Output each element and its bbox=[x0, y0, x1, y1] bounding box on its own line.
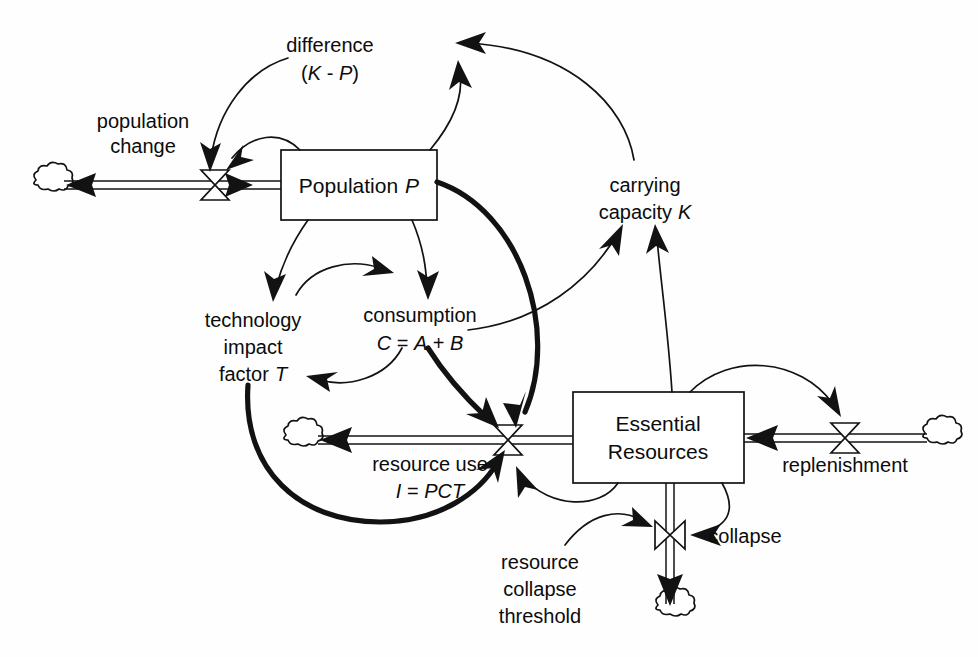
flow-collapse bbox=[655, 483, 685, 606]
aux-label-technology-line1: technology bbox=[205, 309, 302, 331]
cloud-left-top-icon bbox=[34, 162, 73, 191]
flow-arrowhead-population bbox=[225, 173, 253, 197]
valve-population-change-top bbox=[201, 170, 229, 185]
valve-replenishment-bottom bbox=[831, 438, 859, 453]
link-resources-to-carrying-capacity bbox=[646, 224, 672, 392]
valve-resource-use-bottom bbox=[494, 440, 522, 455]
system-dynamics-diagram: PopulationP Essential Resources bbox=[0, 0, 978, 657]
link-consumption-to-resource-use bbox=[428, 348, 499, 428]
valve-replenishment-top bbox=[831, 423, 859, 438]
aux-label-difference-line1: difference bbox=[286, 34, 373, 56]
valve-collapse-left bbox=[655, 521, 670, 549]
aux-label-difference-line2: (K - P) bbox=[301, 62, 359, 84]
link-population-to-difference bbox=[430, 60, 472, 150]
flow-label-replenishment: replenishment bbox=[782, 454, 908, 476]
flow-label-population-change-line1: population bbox=[97, 110, 189, 132]
flow-population-change bbox=[64, 170, 281, 200]
valve-collapse-right bbox=[670, 521, 685, 549]
link-carrying-capacity-to-difference bbox=[455, 32, 634, 160]
flow-label-population-change-line2: change bbox=[110, 135, 176, 157]
valve-population-change-bottom bbox=[201, 185, 229, 200]
stock-essential-resources-label-line2: Resources bbox=[608, 440, 708, 463]
flow-label-resource-use-line1: resource use bbox=[372, 453, 488, 475]
aux-label-carrying-capacity-line1: carrying bbox=[609, 174, 680, 196]
cloud-right-icon bbox=[923, 415, 962, 444]
aux-label-threshold-line3: threshold bbox=[499, 605, 581, 627]
flow-replenishment bbox=[744, 423, 927, 453]
flow-resource-use bbox=[318, 425, 573, 455]
stock-population[interactable]: PopulationP bbox=[281, 150, 437, 220]
link-consumption-to-carrying-capacity bbox=[468, 224, 623, 330]
link-difference-to-population-change bbox=[200, 58, 288, 172]
flow-arrowhead-essential-resources bbox=[746, 425, 778, 451]
aux-label-technology-line2: impact bbox=[224, 336, 283, 358]
flow-label-resource-use-line2: I = PCT bbox=[396, 480, 466, 502]
aux-label-consumption-line1: consumption bbox=[363, 304, 476, 326]
aux-label-threshold-line1: resource bbox=[501, 551, 579, 573]
aux-label-technology-line3: factorT bbox=[219, 363, 289, 385]
flow-label-collapse: collapse bbox=[708, 525, 781, 547]
link-threshold-to-collapse bbox=[565, 507, 653, 545]
stock-essential-resources-label-line1: Essential bbox=[615, 412, 700, 435]
link-technology-to-consumption bbox=[296, 256, 394, 295]
flow-arrowhead-cloud-left-bottom bbox=[320, 427, 352, 453]
stock-essential-resources[interactable]: Essential Resources bbox=[573, 392, 744, 483]
link-population-to-consumption bbox=[412, 220, 439, 300]
diagram-page: PopulationP Essential Resources bbox=[0, 0, 978, 657]
link-population-to-technology bbox=[264, 220, 308, 302]
cloud-left-bottom-icon bbox=[284, 417, 323, 446]
aux-label-threshold-line2: collapse bbox=[503, 578, 576, 600]
aux-label-carrying-capacity-line2: capacityK bbox=[599, 201, 693, 223]
link-consumption-to-technology bbox=[306, 348, 402, 392]
aux-label-consumption-line2: C = A + B bbox=[377, 332, 464, 354]
